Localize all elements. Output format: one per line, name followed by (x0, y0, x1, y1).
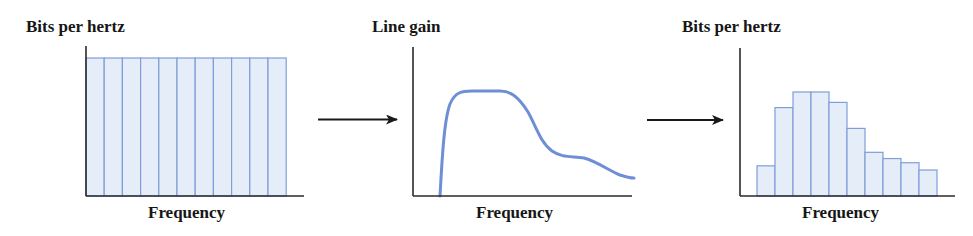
bar (847, 128, 865, 196)
bar (268, 58, 286, 196)
bar (195, 58, 213, 196)
panel-1-title: Bits per hertz (26, 18, 125, 35)
panel-3-x-label: Frequency (802, 204, 879, 221)
bar (919, 170, 937, 196)
bar (213, 58, 231, 196)
panel-3-title: Bits per hertz (682, 18, 781, 35)
bar (865, 152, 883, 196)
bar (250, 58, 268, 196)
bar (829, 102, 847, 196)
adapted-bars (757, 92, 937, 196)
bar (232, 58, 250, 196)
bar (883, 159, 901, 196)
dmt-bit-allocation-diagram: Bits per hertz Frequency Line gain Frequ… (0, 0, 973, 236)
bar (177, 58, 195, 196)
line-gain-curve (440, 91, 634, 196)
diagram-graphics (0, 0, 973, 236)
bar (793, 92, 811, 196)
bar (901, 163, 919, 196)
bar (811, 92, 829, 196)
panel-2-x-label: Frequency (476, 204, 553, 221)
uniform-bars (86, 58, 286, 196)
bar (122, 58, 140, 196)
panel-1-chart (86, 46, 304, 196)
panel-1-x-label: Frequency (148, 204, 225, 221)
bar (104, 58, 122, 196)
bar (141, 58, 159, 196)
bar (775, 108, 793, 196)
bar (86, 58, 104, 196)
bar (757, 166, 775, 196)
panel-2-chart (413, 47, 634, 196)
panel-2-title: Line gain (372, 18, 441, 35)
panel-3-chart (740, 48, 955, 196)
bar (159, 58, 177, 196)
